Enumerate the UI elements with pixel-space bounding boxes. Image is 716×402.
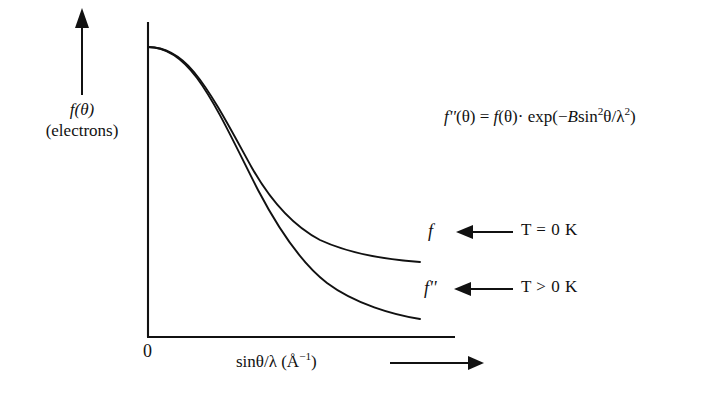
scattering-factor-figure: f(θ) (electrons) 0 sinθ/λ (Å−1) f''(θ) =… <box>0 0 716 402</box>
equation-lhs-symbol: f'' <box>444 107 456 126</box>
curve-label-f-double-prime: f'' <box>424 278 437 299</box>
plot-axes <box>147 22 455 337</box>
x-axis-label: sinθ/λ (Å−1) <box>236 350 317 371</box>
figure-canvas <box>0 0 716 402</box>
curve-f-double-prime <box>148 47 420 319</box>
y-axis-label-line2: (electrons) <box>18 121 146 141</box>
y-axis-label: f(θ) (electrons) <box>18 100 146 140</box>
equation-exp-sin: sin <box>578 107 598 126</box>
x-axis-label-tail: ) <box>311 352 317 371</box>
debye-waller-equation: f''(θ) = f(θ)· exp(−Bsin2θ/λ2) <box>444 105 636 126</box>
x-axis-label-exponent: −1 <box>299 350 311 362</box>
equation-rhs-arg: (θ) <box>498 107 517 126</box>
equation-exp-open: exp(− <box>528 107 568 126</box>
equation-dot: · <box>518 107 528 126</box>
equation-equals: = <box>475 107 493 126</box>
x-axis-label-text: sinθ/λ (Å <box>236 352 299 371</box>
annotation-t-greater-0: T > 0 K <box>521 277 578 297</box>
equation-exp-theta: θ/λ <box>603 107 624 126</box>
equation-exp-b: B <box>567 107 577 126</box>
annotation-t-equals-0: T = 0 K <box>521 220 578 240</box>
x-axis-caption-arrow <box>390 356 484 370</box>
curve-f <box>148 47 420 262</box>
curve-label-f: f <box>428 221 433 242</box>
annotation-arrow-t-equals-0 <box>456 225 513 239</box>
origin-tick-label: 0 <box>143 341 152 362</box>
y-axis-label-line1: f(θ) <box>70 100 94 119</box>
equation-lhs-arg: (θ) <box>456 107 475 126</box>
annotation-arrow-t-greater-0 <box>454 282 513 296</box>
equation-exp-close: ) <box>630 107 636 126</box>
y-axis-caption-arrow <box>75 8 89 95</box>
